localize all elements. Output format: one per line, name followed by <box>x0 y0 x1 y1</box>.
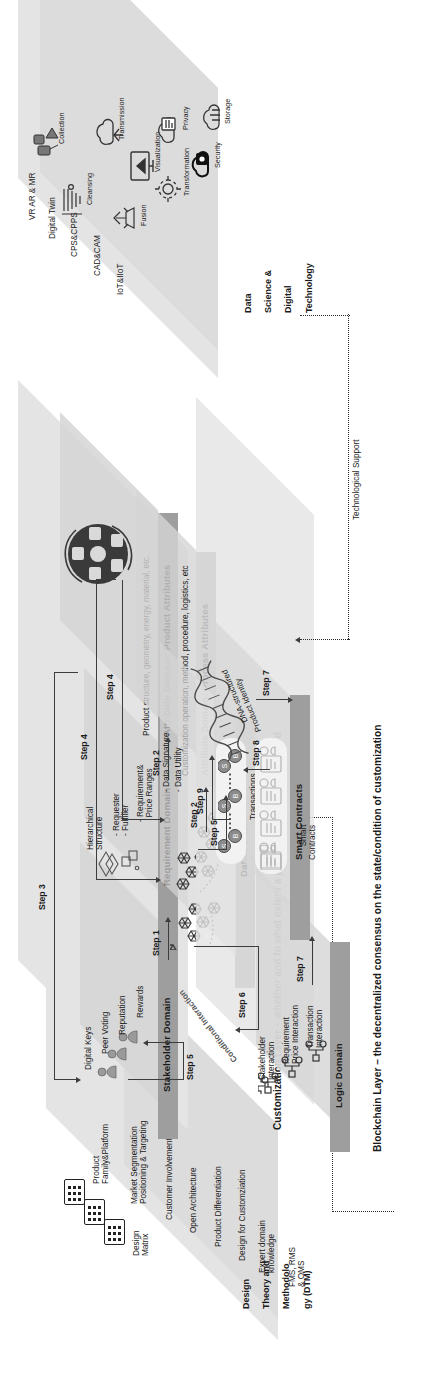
dtm-item-3: Open Architecture <box>189 1113 198 1233</box>
rotated-figure-wrapper: Product Family&Platform Market Segmentat… <box>0 0 425 1380</box>
dtm-subgroup-label: DesignMatrix <box>132 1186 150 1256</box>
stakeholder-attr-0: Digital Keys <box>84 1027 93 1070</box>
funnel-cleansing-icon <box>58 183 86 217</box>
dtm-item-4: Product Differentiation <box>214 1127 223 1247</box>
tech-cap-7: Security <box>214 142 222 168</box>
svg-text:B: B <box>232 793 239 798</box>
matrix-grid-icon <box>84 1199 105 1225</box>
step7a-label: Step 7 <box>296 956 306 982</box>
cloud-lock-security-icon <box>186 144 216 182</box>
step3-label: Step 3 <box>38 884 48 910</box>
monitor-visualization-icon <box>127 148 155 184</box>
tech-cap-6: Privacy <box>182 106 190 130</box>
gear-fusion-icon <box>110 202 140 234</box>
step5a-label: Step 5 <box>210 820 220 846</box>
smart-contracts-group-label: Smart Contracts <box>290 800 327 860</box>
tech-enabler-0: VR AR & MR <box>28 173 37 220</box>
technological-support-label: Technological Support <box>352 439 361 520</box>
tech-cap-1: Cleansing <box>86 173 94 205</box>
gear-transformation-icon <box>152 172 184 206</box>
dtm-layer-title: Design Theory and Methodolo gy (DTM) <box>231 1214 322 1324</box>
dtm-item-0: Product Family&Platform <box>92 1074 110 1184</box>
step7b-label: Step 7 <box>262 670 272 696</box>
stakeholder-attr-1: Peer Voting <box>101 1012 110 1054</box>
tech-enabler-2: CPS&CPPS <box>70 212 79 257</box>
stakeholder-domain-label: Stakeholder Domain <box>162 997 173 1092</box>
cloud-privacy-icon <box>152 110 182 148</box>
tech-cap-8: Storage <box>224 99 232 124</box>
logic-domain-label: Logic Domain <box>334 1043 345 1108</box>
matrix-grid-icon <box>64 1179 85 1205</box>
step6-label: Step 6 <box>238 992 248 1018</box>
satellite-collection-icon <box>30 124 60 158</box>
node-interaction-icon <box>258 1024 328 1094</box>
matrix-grid-icon <box>104 1219 125 1245</box>
tech-enabler-4: IoT&IIoT <box>116 264 125 295</box>
step1-label: Step 1 <box>152 930 162 956</box>
tech-cap-0: Collection <box>58 112 66 144</box>
svg-text:B: B <box>232 833 239 838</box>
stakeholder-attr-2: Reputation <box>118 995 127 1035</box>
tech-cap-2: Transmission <box>118 98 126 140</box>
tech-layer-title: Data Science & Digital Technology <box>233 263 324 328</box>
step9-label: Step 9 <box>196 788 206 814</box>
tech-cap-4: Fusion <box>140 204 148 226</box>
step5b-label: Step 5 <box>186 1054 196 1080</box>
stakeholder-attr-3: Rewards <box>136 986 145 1018</box>
stakeholder-people-icon <box>92 1026 140 1084</box>
step4a-label: Step 4 <box>80 734 90 760</box>
diagram-stage: Product Family&Platform Market Segmentat… <box>0 0 425 1380</box>
blockchain-layer-caption: Blockchain Layer – the decentralized con… <box>372 725 383 1152</box>
tech-enabler-3: CAD&CAM <box>93 235 102 276</box>
data-attr-1: - Data Utility <box>174 747 183 792</box>
step2a-label: Step 2 <box>152 750 162 776</box>
step4b-label: Step 4 <box>106 674 116 700</box>
tech-enabler-1: Digital Twin <box>48 197 57 239</box>
step8-label: Step 8 <box>252 740 262 766</box>
